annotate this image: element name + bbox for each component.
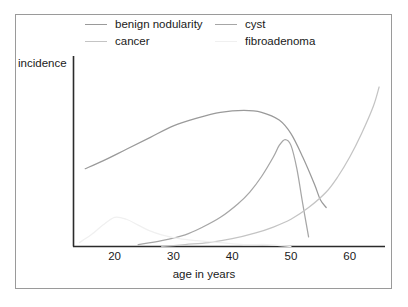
series-line-cancer [162, 87, 379, 246]
x-tick-label: 60 [337, 250, 363, 262]
series-line-benign-nodularity [85, 110, 326, 207]
x-tick-label: 50 [278, 250, 304, 262]
x-tick-label: 20 [102, 250, 128, 262]
series-line-cyst [138, 140, 308, 245]
chart-figure: benign nodularity cancer cyst fibroadeno… [0, 0, 408, 307]
x-axis-label: age in years [0, 268, 408, 280]
x-tick-label: 40 [219, 250, 245, 262]
x-tick-label: 30 [160, 250, 186, 262]
series-layer [79, 87, 379, 246]
